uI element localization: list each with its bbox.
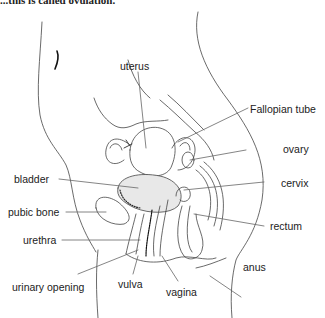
label-fallopian-tube: Fallopian tube <box>250 103 316 115</box>
anatomy-illustration <box>0 0 325 318</box>
label-ovary: ovary <box>283 143 309 155</box>
label-uterus: uterus <box>120 60 149 72</box>
label-urinary-opening: urinary opening <box>12 281 84 293</box>
label-vagina: vagina <box>166 286 197 298</box>
label-anus: anus <box>243 261 266 273</box>
label-cervix: cervix <box>281 177 308 189</box>
label-vulva: vulva <box>118 278 143 290</box>
label-bladder: bladder <box>14 173 49 185</box>
label-urethra: urethra <box>23 234 56 246</box>
label-pubic-bone: pubic bone <box>8 206 59 218</box>
label-rectum: rectum <box>270 220 302 232</box>
